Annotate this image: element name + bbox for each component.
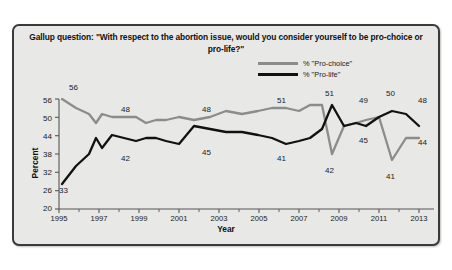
- data-label-pro-choice-2009: 42: [325, 166, 334, 175]
- data-label-pro-choice-2003: 48: [202, 105, 211, 114]
- data-label-pro-life-2012: 50: [386, 89, 395, 98]
- data-label-pro-life-1999: 42: [121, 154, 130, 163]
- plot-area: Percent Year 56 50 44 38 32 26 20 1995 1…: [14, 26, 438, 244]
- data-label-pro-life-2003: 45: [202, 148, 211, 157]
- data-label-pro-choice-2011: 45: [359, 136, 368, 145]
- data-label-pro-life-2009: 51: [325, 89, 334, 98]
- data-label-pro-life-2007: 41: [277, 154, 286, 163]
- data-label-pro-choice-2013: 44: [418, 138, 427, 147]
- series-line-pro-choice: [62, 99, 419, 160]
- data-label-pro-choice-2007: 51: [277, 96, 286, 105]
- data-label-pro-choice-1995: 56: [69, 83, 78, 92]
- data-label-pro-life-2013: 48: [418, 96, 427, 105]
- data-label-pro-choice-2012: 41: [386, 172, 395, 181]
- chart-svg: [14, 26, 442, 248]
- data-label-pro-life-2011: 49: [359, 96, 368, 105]
- chart-panel: Gallup question: "With respect to the ab…: [12, 24, 440, 246]
- data-label-pro-choice-1999: 48: [121, 105, 130, 114]
- data-label-pro-life-1995: 33: [59, 186, 68, 195]
